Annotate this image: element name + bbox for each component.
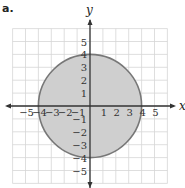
y-tick-label: 1 (81, 88, 87, 99)
part-label: a. (2, 2, 14, 15)
y-tick-label: −3 (72, 140, 87, 151)
x-axis-label: x (179, 99, 185, 113)
x-axis-arrow-right-icon (170, 104, 176, 109)
y-tick-label: −2 (72, 127, 87, 138)
x-axis-arrow-left-icon (5, 104, 11, 109)
x-tick-label: 1 (101, 107, 107, 118)
x-tick-label: 2 (114, 107, 120, 118)
y-tick-label: −5 (72, 166, 87, 177)
y-tick-label: −4 (72, 153, 87, 164)
y-tick-label: −1 (72, 114, 87, 125)
y-axis-arrow-down-icon (88, 182, 93, 188)
y-axis-arrow-up-icon (88, 19, 93, 25)
y-axis-label: y (85, 3, 93, 17)
y-tick-label: 4 (81, 49, 87, 60)
x-tick-label: 5 (152, 107, 158, 118)
y-tick-label: 5 (81, 37, 87, 48)
x-tick-label: 3 (127, 107, 133, 118)
y-tick-label: 3 (81, 62, 87, 73)
y-tick-label: 2 (81, 75, 87, 86)
x-tick-label: 4 (139, 107, 145, 118)
coordinate-plane: a. y x −5−4−3−2−112345 54321−1−2−3−4−5 (0, 0, 185, 188)
